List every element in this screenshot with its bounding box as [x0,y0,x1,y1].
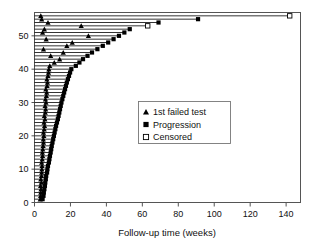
legend-label: Progression [153,120,201,130]
progression-marker [111,37,115,41]
progression-marker [77,60,81,64]
y-tick-label: 20 [18,131,28,141]
censored-marker [146,24,150,28]
progression-marker [122,30,126,34]
chart-figure: 01020304050 020406080100120140 1st faile… [0,0,318,250]
progression-marker [81,57,85,61]
x-tick-label: 60 [137,209,147,219]
progression-marker [196,17,200,21]
x-axis-title: Follow-up time (weeks) [118,227,216,238]
progression-marker [106,40,110,44]
chart-legend: 1st failed testProgressionCensored [139,102,231,144]
legend-label: Censored [153,132,192,142]
progression-marker [69,67,73,71]
legend-marker-progression [143,122,148,127]
y-tick-label: 10 [18,164,28,174]
censored-marker [288,14,292,18]
x-tick-label: 120 [243,209,258,219]
x-tick-label: 0 [32,209,37,219]
y-tick-label: 40 [18,64,28,74]
x-tick-label: 80 [173,209,183,219]
y-tick-label: 0 [23,198,28,208]
y-tick-label: 30 [18,98,28,108]
progression-marker [101,44,105,48]
y-tick-label: 50 [18,31,28,41]
progression-marker [117,34,121,38]
progression-marker [90,50,94,54]
x-tick-label: 100 [207,209,222,219]
x-tick-label: 140 [279,209,294,219]
progression-marker [95,47,99,51]
legend-label: 1st failed test [153,107,207,117]
progression-marker [74,64,78,68]
progression-marker [156,20,160,24]
x-tick-label: 20 [65,209,75,219]
progression-marker [85,54,89,58]
swimmer-plot: 01020304050 020406080100120140 1st faile… [0,0,318,250]
x-tick-label: 40 [101,209,111,219]
progression-marker [128,27,132,31]
legend-marker-censored [143,134,148,139]
